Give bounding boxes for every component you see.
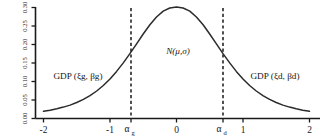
alpha-g-letter: α bbox=[125, 124, 130, 134]
alpha-d-subscript: d bbox=[223, 129, 227, 136]
y-tick-labels: 0.00 0.05 0.10 0.15 0.20 0.25 0.30 bbox=[21, 1, 28, 124]
density-curve bbox=[44, 7, 310, 111]
x-tick-labels: -2 -1 0 1 2 bbox=[40, 125, 313, 135]
x-tick-label-minus2: -2 bbox=[40, 125, 48, 135]
right-region-annotation: GDP (ξd, βd) bbox=[250, 71, 299, 81]
curve-name-annotation: N(μ,σ) bbox=[165, 46, 190, 56]
alpha-d-label: α d bbox=[217, 124, 228, 136]
y-tick-label-015: 0.15 bbox=[21, 57, 28, 69]
x-tick-label-zero: 0 bbox=[174, 125, 179, 135]
y-tick-label-010: 0.10 bbox=[21, 75, 28, 87]
alpha-g-label: α g bbox=[125, 124, 136, 136]
y-tick-label-000: 0.00 bbox=[21, 112, 28, 124]
plot-area: 0.00 0.05 0.10 0.15 0.20 0.25 0.30 -2 -1… bbox=[0, 0, 328, 139]
alpha-d-letter: α bbox=[217, 124, 222, 134]
x-tick-label-minus1: -1 bbox=[106, 125, 114, 135]
y-tick-label-020: 0.20 bbox=[21, 38, 28, 50]
alpha-g-subscript: g bbox=[131, 129, 135, 136]
y-tick-label-005: 0.05 bbox=[21, 94, 28, 106]
left-region-annotation: GDP (ξg, βg) bbox=[53, 71, 102, 81]
x-tick-label-two: 2 bbox=[307, 125, 312, 135]
y-tick-label-025: 0.25 bbox=[21, 20, 28, 32]
x-tick-label-one: 1 bbox=[241, 125, 246, 135]
y-tick-label-030: 0.30 bbox=[21, 1, 28, 13]
normal-distribution-figure: 0.00 0.05 0.10 0.15 0.20 0.25 0.30 -2 -1… bbox=[0, 0, 328, 139]
